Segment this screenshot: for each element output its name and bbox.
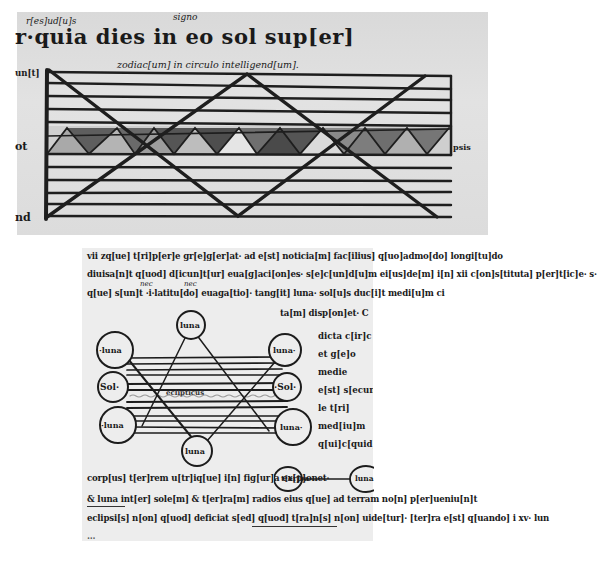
- circle-label-middle-left: Sol·: [100, 382, 119, 392]
- right-col-line: et g[e]o: [318, 349, 373, 359]
- circle-label-upper-right: luna·: [273, 345, 296, 355]
- circle-label-lower-left: ·luna: [101, 420, 124, 430]
- text-line-6: & luna int[er] sole[m] & t[er]ra[m] radi…: [87, 494, 477, 504]
- circle-label-top: luna: [180, 320, 200, 330]
- circle-label-middle-right: ·Sol·: [274, 382, 296, 392]
- text-line-8-cut: ...: [87, 531, 95, 541]
- right-col-line: q[ui]c[quid]: n: [318, 439, 373, 449]
- underline-rule: [87, 506, 125, 507]
- text-line-7: eclipsi[s] n[on] q[uod] deficiat s[ed] q…: [87, 513, 549, 523]
- inline-circle-terra: t[er]ra: [281, 474, 309, 483]
- circle-label-upper-left: ·luna: [99, 345, 122, 355]
- right-col-line: le t[ri]: [318, 403, 373, 413]
- center-band-label: eclipticus: [166, 388, 204, 397]
- gloss-nec-1: nec: [140, 280, 153, 288]
- right-col-line: dicta c[ir]c: [318, 331, 373, 341]
- circle-label-lower-right: luna·: [280, 422, 303, 432]
- underline-rule: [252, 526, 337, 527]
- manuscript-figure-top: r[es]ud[u]s signo r·quia dies in eo sol …: [17, 12, 488, 235]
- eclipse-band-diagram: [17, 12, 488, 235]
- gloss-nec-2: nec: [184, 280, 197, 288]
- text-line-3: q[ue] s[un]t ·i·latitu[do] euaga[tio]· t…: [87, 288, 445, 298]
- right-column-text: dicta c[ir]c et g[e]o medie e[st] s[ecun…: [318, 331, 373, 449]
- manuscript-figure-bottom: vii zq[ue] t[ri]p[er]e gr[e]g[er]at· ad …: [82, 248, 373, 541]
- text-line-1: vii zq[ue] t[ri]p[er]e gr[e]g[er]at· ad …: [87, 251, 503, 261]
- right-col-line: med[iu]m: [318, 421, 373, 431]
- text-line-2: diuisa[n]t q[uod] d[icun]t[ur] eua[g]aci…: [87, 269, 597, 279]
- right-col-line: e[st] s[ecun]d[u]m: [318, 385, 373, 395]
- inline-circle-luna: luna: [355, 474, 374, 483]
- right-col-line: medie: [318, 367, 373, 377]
- circle-label-bottom: luna: [185, 446, 205, 456]
